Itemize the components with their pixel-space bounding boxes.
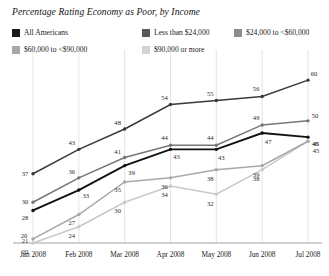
data-point-label: 27 bbox=[69, 218, 76, 225]
data-point-marker bbox=[169, 148, 172, 151]
data-point-marker bbox=[123, 156, 126, 159]
data-point-label: 28 bbox=[22, 214, 29, 221]
data-point-label: 60 bbox=[311, 70, 318, 77]
x-tick-label-1: Feb 2008 bbox=[65, 250, 92, 259]
data-point-marker bbox=[123, 180, 126, 183]
data-point-marker bbox=[260, 168, 263, 171]
x-tick-label-4: May 2008 bbox=[201, 250, 231, 259]
x-tick-label-3: Apr 2008 bbox=[157, 250, 185, 259]
data-point-label: 49 bbox=[253, 113, 260, 120]
data-point-marker bbox=[31, 201, 34, 204]
data-point-marker bbox=[31, 237, 34, 240]
data-point-marker bbox=[215, 99, 218, 102]
x-tick-label-6: Jul 2008 bbox=[296, 250, 321, 259]
data-point-label: 48 bbox=[114, 119, 121, 126]
data-point-marker bbox=[215, 148, 218, 151]
y-tick-label-min: 20 bbox=[21, 232, 28, 239]
data-point-label: 39 bbox=[128, 168, 135, 175]
data-point-label: 38 bbox=[207, 174, 214, 181]
data-point-marker bbox=[306, 78, 309, 81]
data-point-label: 55 bbox=[207, 89, 214, 96]
data-point-marker bbox=[215, 192, 218, 195]
data-point-marker bbox=[260, 131, 263, 134]
data-point-label: 30 bbox=[22, 198, 29, 205]
data-point-marker bbox=[169, 103, 172, 106]
x-tick-label-2: Mar 2008 bbox=[110, 250, 139, 259]
data-point-label: 32 bbox=[207, 200, 214, 207]
data-point-marker bbox=[215, 168, 218, 171]
data-point-label: 43 bbox=[69, 139, 76, 146]
data-point-label: 38 bbox=[253, 174, 260, 181]
data-point-label: 37 bbox=[22, 169, 29, 176]
data-point-marker bbox=[77, 213, 80, 216]
data-point-marker bbox=[260, 123, 263, 126]
data-point-label: 56 bbox=[253, 85, 260, 92]
data-point-label: 44 bbox=[207, 134, 214, 141]
data-point-marker bbox=[123, 201, 126, 204]
data-point-marker bbox=[215, 144, 218, 147]
data-point-marker bbox=[123, 127, 126, 130]
data-point-label: 35 bbox=[114, 185, 121, 192]
data-point-label: 43 bbox=[173, 153, 180, 160]
data-point-marker bbox=[77, 188, 80, 191]
data-point-label: 43 bbox=[218, 154, 225, 161]
data-point-label: 45 bbox=[313, 140, 320, 147]
data-point-marker bbox=[169, 176, 172, 179]
data-point-label: 47 bbox=[265, 138, 272, 145]
data-point-marker bbox=[77, 148, 80, 151]
data-point-marker bbox=[77, 176, 80, 179]
data-point-marker bbox=[306, 140, 309, 143]
data-point-label: 24 bbox=[69, 231, 76, 238]
data-point-marker bbox=[306, 135, 309, 138]
data-point-marker bbox=[123, 164, 126, 167]
data-point-label: 44 bbox=[161, 134, 168, 141]
data-point-label: 45 bbox=[313, 147, 320, 154]
data-point-marker bbox=[77, 225, 80, 228]
x-tick-label-5: Jun 2008 bbox=[249, 250, 276, 259]
data-point-label: 33 bbox=[83, 192, 90, 199]
data-point-marker bbox=[31, 209, 34, 212]
data-point-label: 41 bbox=[114, 147, 121, 154]
data-point-marker bbox=[260, 95, 263, 98]
data-point-marker bbox=[31, 241, 34, 244]
data-point-marker bbox=[260, 164, 263, 167]
x-tick-label-0: Jan 2008 bbox=[20, 250, 46, 259]
data-point-label: 50 bbox=[312, 111, 319, 118]
data-point-label: 34 bbox=[161, 191, 168, 198]
data-point-marker bbox=[169, 144, 172, 147]
data-point-marker bbox=[306, 119, 309, 122]
data-point-label: 30 bbox=[114, 207, 121, 214]
data-point-label: 36 bbox=[69, 167, 76, 174]
data-point-marker bbox=[31, 172, 34, 175]
data-point-label: 54 bbox=[161, 93, 168, 100]
chart-container: Percentage Rating Economy as Poor, by In… bbox=[0, 0, 329, 276]
data-point-label: 36 bbox=[161, 182, 168, 189]
data-point-marker bbox=[169, 184, 172, 187]
